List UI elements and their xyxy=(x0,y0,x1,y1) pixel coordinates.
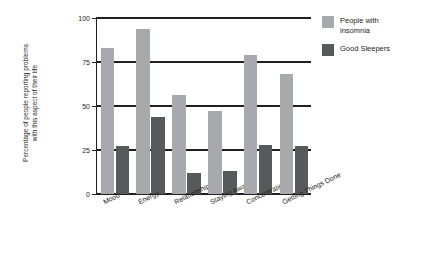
legend-label: People with insomnia xyxy=(340,16,379,35)
bar xyxy=(116,146,130,194)
legend-item: Good Sleepers xyxy=(322,44,390,56)
legend-label: Good Sleepers xyxy=(340,44,390,54)
y-axis-tick-label: 100 xyxy=(78,15,90,22)
y-axis-tick-label: 0 xyxy=(86,191,90,198)
y-axis-title: Percentage of people reporting problems … xyxy=(4,0,18,28)
legend-swatch xyxy=(322,16,334,28)
gridline xyxy=(96,17,311,18)
y-axis-tick xyxy=(92,150,96,151)
legend-swatch xyxy=(322,44,334,56)
bar xyxy=(244,55,258,194)
bar xyxy=(136,29,150,194)
y-axis-tick xyxy=(92,18,96,19)
plot-area: 0255075100MoodEnergyRelationshipsStaying… xyxy=(96,18,311,194)
y-axis-tick-label: 25 xyxy=(82,147,90,154)
y-axis-tick xyxy=(92,62,96,63)
bar xyxy=(101,48,115,194)
y-axis-tick xyxy=(92,106,96,107)
bar xyxy=(151,117,165,194)
chart-legend: People with insomniaGood Sleepers xyxy=(322,16,390,65)
bar-chart: Percentage of people reporting problems … xyxy=(0,0,434,255)
y-axis-tick xyxy=(92,194,96,195)
y-axis-title-label: Percentage of people reporting problems … xyxy=(22,28,39,178)
bar xyxy=(208,111,222,194)
bar xyxy=(280,74,294,194)
bar xyxy=(172,95,186,194)
gridline xyxy=(96,61,311,62)
y-axis-tick-label: 75 xyxy=(82,59,90,66)
legend-item: People with insomnia xyxy=(322,16,390,35)
y-axis-tick-label: 50 xyxy=(82,103,90,110)
